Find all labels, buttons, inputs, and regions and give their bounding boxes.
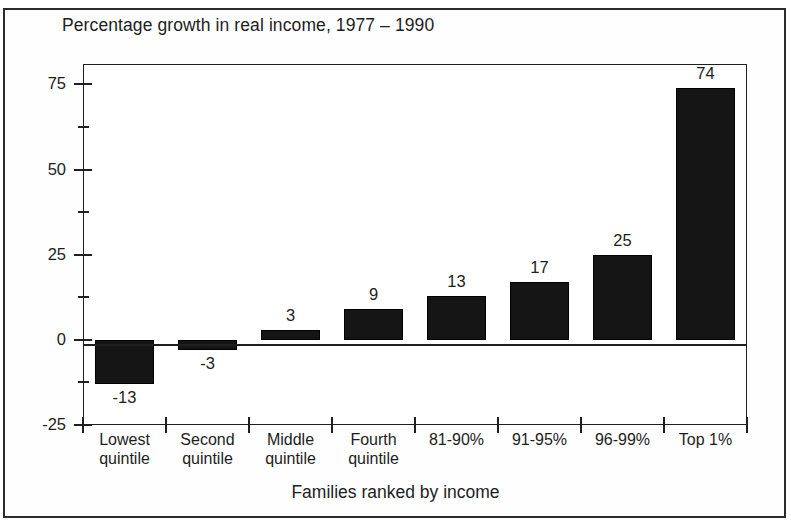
chart-title: Percentage growth in real income, 1977 –… bbox=[62, 15, 434, 36]
y-axis-tick-minor bbox=[78, 296, 89, 298]
y-axis-tick-minor bbox=[78, 126, 89, 128]
y-axis-tick-major bbox=[74, 339, 92, 341]
x-axis-category-label: 81-90% bbox=[415, 430, 498, 449]
bar-value-label: 74 bbox=[664, 64, 747, 83]
x-axis-category-label-line: Fourth bbox=[332, 430, 415, 449]
x-axis-category-label: Fourthquintile bbox=[332, 430, 415, 468]
y-axis-tick-label: 75 bbox=[22, 74, 66, 92]
y-axis-tick-minor bbox=[78, 381, 89, 383]
y-axis-tick-label: -25 bbox=[22, 415, 66, 433]
y-axis-tick-major bbox=[74, 83, 92, 85]
chart-figure: Percentage growth in real income, 1977 –… bbox=[0, 0, 791, 529]
y-axis-tick-label-text: 25 bbox=[22, 245, 66, 264]
y-axis-tick-label: 50 bbox=[22, 160, 66, 178]
x-axis-tick bbox=[165, 417, 167, 433]
bar-value-label: 13 bbox=[415, 272, 498, 291]
zero-baseline bbox=[83, 344, 747, 346]
y-axis-tick-label-text: -25 bbox=[22, 415, 66, 434]
y-axis-tick-label: 25 bbox=[22, 245, 66, 263]
x-axis-category-label-line: Middle bbox=[249, 430, 332, 449]
y-axis-tick-minor bbox=[78, 211, 89, 213]
bar bbox=[261, 330, 319, 340]
bar bbox=[95, 340, 153, 384]
bar-value-label: 25 bbox=[581, 231, 664, 250]
bar bbox=[676, 88, 734, 340]
x-axis-tick bbox=[414, 417, 416, 433]
bar bbox=[593, 255, 651, 340]
bar bbox=[510, 282, 568, 340]
x-axis-category-label-line: 81-90% bbox=[415, 430, 498, 449]
x-axis-category-label: 96-99% bbox=[581, 430, 664, 449]
x-axis-category-label: Lowestquintile bbox=[83, 430, 166, 468]
y-axis-tick-label-text: 75 bbox=[22, 74, 66, 93]
bar bbox=[427, 296, 485, 340]
x-axis-category-label: 91-95% bbox=[498, 430, 581, 449]
x-axis-tick bbox=[331, 417, 333, 433]
bar-value-label: -3 bbox=[166, 354, 249, 373]
bar-value-label: 3 bbox=[249, 306, 332, 325]
x-axis-category-label-line: 91-95% bbox=[498, 430, 581, 449]
x-axis-tick bbox=[82, 417, 84, 433]
x-axis-tick bbox=[663, 417, 665, 433]
y-axis-tick-label-text: 50 bbox=[22, 160, 66, 179]
x-axis-category-label-line: quintile bbox=[83, 449, 166, 468]
x-axis-tick bbox=[497, 417, 499, 433]
y-axis-tick-label: 0 bbox=[22, 330, 66, 348]
x-axis-category-label-line: 96-99% bbox=[581, 430, 664, 449]
y-axis-tick-label-text: 0 bbox=[22, 330, 66, 349]
x-axis-category-label: Top 1% bbox=[664, 430, 747, 449]
x-axis-category-label-line: Second bbox=[166, 430, 249, 449]
bar-value-label: 9 bbox=[332, 285, 415, 304]
y-axis-tick-major bbox=[74, 169, 92, 171]
x-axis-tick bbox=[580, 417, 582, 433]
x-axis-title: Families ranked by income bbox=[0, 482, 791, 503]
bar-value-label: 17 bbox=[498, 258, 581, 277]
bar-value-label: -13 bbox=[83, 388, 166, 407]
x-axis-category-label: Middlequintile bbox=[249, 430, 332, 468]
x-axis-category-label-line: quintile bbox=[249, 449, 332, 468]
x-axis-category-label-line: Top 1% bbox=[664, 430, 747, 449]
x-axis-category-label-line: quintile bbox=[166, 449, 249, 468]
bar bbox=[344, 309, 402, 340]
x-axis-tick bbox=[746, 417, 748, 433]
y-axis-tick-major bbox=[74, 254, 92, 256]
x-axis-tick bbox=[248, 417, 250, 433]
x-axis-category-label: Secondquintile bbox=[166, 430, 249, 468]
x-axis-category-label-line: Lowest bbox=[83, 430, 166, 449]
x-axis-category-label-line: quintile bbox=[332, 449, 415, 468]
